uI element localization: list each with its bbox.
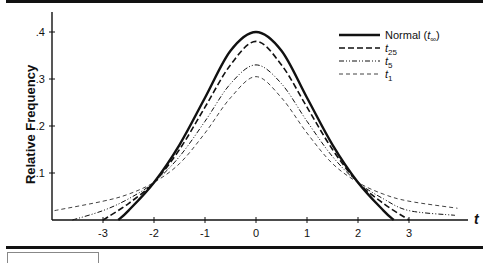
y-axis-label: Relative Frequency (23, 65, 38, 185)
legend-label: Normal (t∞) (385, 29, 440, 44)
curve-t5 (72, 65, 455, 220)
x-axis-label: t (474, 211, 480, 227)
y-tick-label: .4 (36, 26, 45, 38)
legend: Normal (t∞)t25t5t1 (339, 29, 440, 83)
x-tick-label: -2 (149, 227, 159, 239)
x-tick-label: 1 (304, 227, 310, 239)
x-tick-label: -1 (200, 227, 210, 239)
x-tick-label: 3 (406, 227, 412, 239)
curve-normalt (118, 32, 393, 220)
bottom-rule (6, 246, 483, 249)
axes: .1.2.3.4-3-2-10123t (36, 12, 480, 239)
curve-t25 (103, 41, 409, 220)
caption-box (7, 252, 99, 263)
x-tick-label: -3 (98, 227, 108, 239)
x-tick-label: 0 (253, 227, 259, 239)
curves (55, 32, 458, 220)
x-tick-label: 2 (355, 227, 361, 239)
curve-t1 (55, 77, 458, 211)
legend-label: t1 (385, 68, 393, 83)
